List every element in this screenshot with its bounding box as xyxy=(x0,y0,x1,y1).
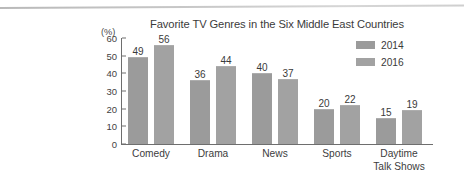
scan-artifact-line xyxy=(0,4,464,9)
legend-item-2014: 2014 xyxy=(356,38,404,52)
x-axis-line xyxy=(121,144,433,145)
y-tick-label: 0 xyxy=(112,139,122,150)
bar-group: 4037News xyxy=(246,38,308,144)
x-axis-category-line: News xyxy=(262,148,287,159)
chart-figure: Favorite TV Genres in the Six Middle Eas… xyxy=(0,0,464,184)
y-tick-label: 10 xyxy=(106,121,122,132)
bar-2014-daytime-talk-shows: 15 xyxy=(376,118,396,145)
bar-2014-comedy: 49 xyxy=(128,57,148,144)
legend-swatch-icon xyxy=(356,58,375,66)
x-axis-category-label: News xyxy=(262,148,287,161)
chart-legend: 20142016 xyxy=(356,38,404,72)
bar-group: 4956Comedy xyxy=(122,38,184,144)
x-axis-category-label: Sports xyxy=(322,148,351,161)
bar-2016-daytime-talk-shows: 19 xyxy=(402,110,422,144)
legend-swatch-icon xyxy=(356,41,375,49)
legend-label: 2014 xyxy=(381,40,404,51)
bar-value-label: 56 xyxy=(158,34,169,45)
x-axis-category-label: Comedy xyxy=(132,148,170,161)
bar-value-label: 40 xyxy=(256,62,267,73)
bar-group: 3644Drama xyxy=(184,38,246,144)
bar-2014-sports: 20 xyxy=(314,109,334,144)
x-axis-category-line: Drama xyxy=(198,148,229,159)
bar-2016-drama: 44 xyxy=(216,66,236,144)
y-tick-label: 40 xyxy=(106,68,122,79)
bar-value-label: 22 xyxy=(344,94,355,105)
bar-value-label: 20 xyxy=(318,98,329,109)
bar-value-label: 49 xyxy=(132,46,143,57)
legend-item-2016: 2016 xyxy=(356,55,404,69)
y-tick-label: 20 xyxy=(106,103,122,114)
bar-2014-news: 40 xyxy=(252,73,272,144)
bar-2016-sports: 22 xyxy=(340,105,360,144)
bar-2016-news: 37 xyxy=(278,79,298,144)
legend-label: 2016 xyxy=(381,57,404,68)
x-axis-category-line: Talk Shows xyxy=(373,161,425,174)
bar-2016-comedy: 56 xyxy=(154,45,174,144)
y-tick-label: 50 xyxy=(106,50,122,61)
y-tick-label: 60 xyxy=(106,33,122,44)
bar-2014-drama: 36 xyxy=(190,80,210,144)
bar-value-label: 44 xyxy=(220,55,231,66)
x-axis-category-line: Comedy xyxy=(132,148,170,159)
x-axis-category-line: Sports xyxy=(322,148,351,159)
bar-value-label: 15 xyxy=(380,107,391,118)
bar-value-label: 19 xyxy=(406,99,417,110)
y-tick-label: 30 xyxy=(106,86,122,97)
chart-title: Favorite TV Genres in the Six Middle Eas… xyxy=(122,18,432,30)
bar-value-label: 36 xyxy=(194,69,205,80)
bar-value-label: 37 xyxy=(282,68,293,79)
x-axis-category-label: DaytimeTalk Shows xyxy=(373,148,425,173)
x-axis-category-line: Daytime xyxy=(380,148,417,159)
x-axis-category-label: Drama xyxy=(198,148,229,161)
